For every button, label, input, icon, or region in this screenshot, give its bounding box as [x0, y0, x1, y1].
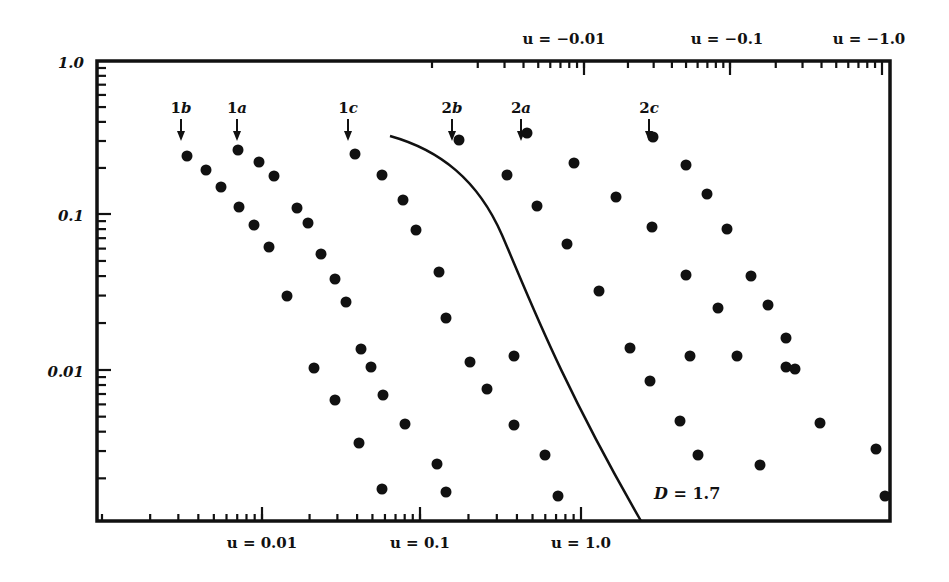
data-point	[341, 297, 352, 308]
svg-text:2a: 2a	[511, 99, 531, 117]
data-point	[303, 218, 314, 229]
data-point	[693, 450, 704, 461]
axis-ticks	[97, 61, 882, 521]
top-label-u-neg-0.1: u = −0.1	[691, 30, 764, 48]
data-point	[781, 333, 792, 344]
data-point	[569, 158, 580, 169]
series-marker-1a: 1a	[227, 99, 247, 141]
data-point	[790, 364, 801, 375]
data-point	[249, 220, 260, 231]
data-point	[648, 132, 659, 143]
series-marker-1b: 1b	[171, 99, 192, 141]
data-point	[611, 192, 622, 203]
data-point	[522, 128, 533, 139]
data-point	[377, 170, 388, 181]
data-point	[378, 390, 389, 401]
data-point	[411, 225, 422, 236]
data-point	[441, 487, 452, 498]
data-point	[702, 189, 713, 200]
data-point	[366, 362, 377, 373]
data-point	[502, 170, 513, 181]
d-1.7-curve	[390, 136, 641, 521]
data-point	[356, 344, 367, 355]
data-point	[465, 357, 476, 368]
data-point	[746, 271, 757, 282]
data-point	[330, 274, 341, 285]
down-arrow-icon	[233, 131, 241, 141]
y-tick-label-0.01: 0.01	[47, 363, 84, 381]
top-label-u-neg-1.0: u = −1.0	[833, 30, 906, 48]
data-point	[454, 135, 465, 146]
data-point	[645, 376, 656, 387]
data-point	[675, 416, 686, 427]
data-point	[309, 363, 320, 374]
data-point	[553, 491, 564, 502]
bottom-label-u-1.0: u = 1.0	[551, 534, 611, 552]
data-point	[432, 459, 443, 470]
data-point	[398, 195, 409, 206]
plot-frame	[97, 61, 890, 521]
data-point	[755, 460, 766, 471]
data-point	[441, 313, 452, 324]
data-point	[880, 491, 891, 502]
data-point	[681, 270, 692, 281]
svg-text:1b: 1b	[171, 99, 192, 117]
data-point	[330, 395, 341, 406]
data-point	[350, 149, 361, 160]
down-arrow-icon	[344, 131, 352, 141]
data-point	[713, 303, 724, 314]
bottom-label-u-0.1: u = 0.1	[390, 534, 450, 552]
svg-text:1a: 1a	[227, 99, 247, 117]
data-point	[685, 351, 696, 362]
data-point	[377, 484, 388, 495]
data-point	[594, 286, 605, 297]
data-point	[292, 203, 303, 214]
series-markers: 1b1a1c2b2a2c	[171, 99, 659, 141]
data-point	[647, 222, 658, 233]
y-tick-label-1: 1.0	[58, 54, 85, 72]
data-point	[216, 182, 227, 193]
data-point	[509, 420, 520, 431]
data-point	[871, 444, 882, 455]
data-point	[540, 450, 551, 461]
data-point	[532, 201, 543, 212]
svg-text:1c: 1c	[338, 99, 358, 117]
top-label-u-neg-0.01: u = −0.01	[522, 30, 605, 48]
bottom-label-u-0.01: u = 0.01	[227, 534, 297, 552]
data-point	[815, 418, 826, 429]
y-tick-label-0.1: 0.1	[58, 207, 84, 225]
data-point	[234, 202, 245, 213]
data-point	[722, 224, 733, 235]
data-point	[316, 249, 327, 260]
data-point	[732, 351, 743, 362]
data-point	[509, 351, 520, 362]
data-point	[562, 239, 573, 250]
data-point	[482, 384, 493, 395]
curve-label: D = 1.7	[653, 484, 720, 503]
data-point	[264, 242, 275, 253]
data-point	[254, 157, 265, 168]
data-point	[625, 343, 636, 354]
data-point	[681, 160, 692, 171]
data-point	[434, 267, 445, 278]
down-arrow-icon	[177, 131, 185, 141]
svg-text:2b: 2b	[442, 99, 463, 117]
svg-text:2c: 2c	[639, 99, 659, 117]
data-point	[282, 291, 293, 302]
series-marker-1c: 1c	[338, 99, 358, 141]
chart-figure: 1.0 0.1 0.01 u = 0.01 u = 0.1 u = 1.0 u …	[0, 0, 949, 582]
data-point	[233, 145, 244, 156]
data-point	[354, 438, 365, 449]
data-point	[763, 300, 774, 311]
data-point	[269, 171, 280, 182]
data-point	[182, 151, 193, 162]
data-point	[201, 165, 212, 176]
data-point	[400, 419, 411, 430]
